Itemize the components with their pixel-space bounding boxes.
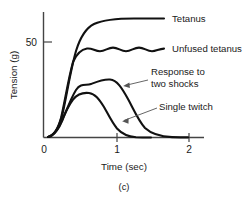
leader-response-two-shocks bbox=[123, 80, 148, 88]
y-axis-label: Tension (g) bbox=[8, 51, 19, 99]
series-label-response-two-shocks-line2: two shocks bbox=[151, 78, 199, 89]
x-axis-label: Time (sec) bbox=[101, 161, 147, 172]
series-label-single-twitch: Single twitch bbox=[159, 101, 213, 112]
tension-vs-time-chart: 50 0 1 2 Time (sec) Tension (g) Tetanus … bbox=[0, 0, 250, 199]
y-tick-label-50: 50 bbox=[26, 37, 38, 48]
figure-caption: (c) bbox=[119, 181, 130, 192]
figure-container: 50 0 1 2 Time (sec) Tension (g) Tetanus … bbox=[0, 0, 250, 199]
curve-unfused-tetanus bbox=[48, 48, 164, 137]
curve-tetanus bbox=[48, 19, 164, 138]
series-label-tetanus: Tetanus bbox=[172, 13, 206, 24]
x-tick-label-0: 0 bbox=[41, 144, 47, 155]
x-tick-label-1: 1 bbox=[114, 144, 120, 155]
series-label-response-two-shocks-line1: Response to bbox=[151, 66, 205, 77]
series-label-unfused-tetanus: Unfused tetanus bbox=[172, 43, 242, 54]
x-tick-label-2: 2 bbox=[186, 144, 192, 155]
chart-axes bbox=[44, 12, 205, 142]
